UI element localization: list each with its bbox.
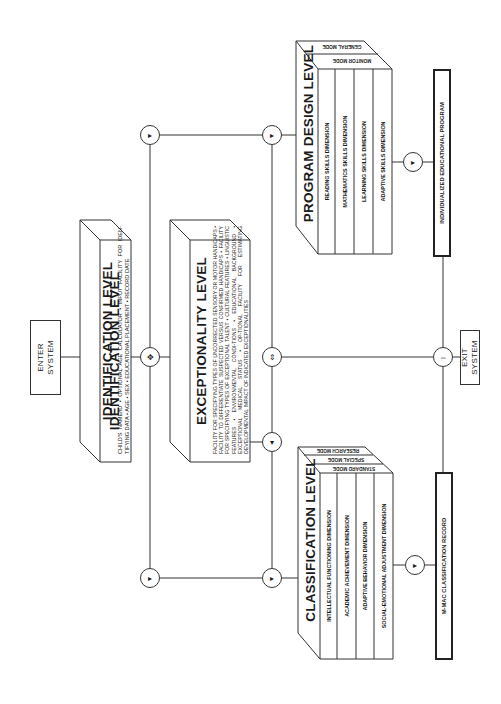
identification-level-panel: IDENTIFICATION LEVEL CHILD'S NAME/ID • O…: [80, 220, 131, 462]
junction-top-middle-arrow-right-icon[interactable]: ▸: [262, 125, 282, 145]
mode-standard[interactable]: STANDARD MODE: [324, 466, 384, 471]
junction-classification-output-arrow-right-icon[interactable]: ▸: [405, 555, 425, 575]
enter-system-label-1: ENTER: [36, 343, 46, 372]
mode-monitor[interactable]: MONITOR MODE: [322, 58, 382, 63]
mode-general[interactable]: GENERAL MODE: [312, 44, 372, 49]
connector-lines: [0, 0, 501, 704]
identification-description: CHILD'S NAME/ID • OPTIONAL AGE CALCULATO…: [115, 220, 131, 462]
junction-top-left-arrow-right-icon[interactable]: ▸: [140, 125, 160, 145]
junction-bottom-middle-arrow-right-icon[interactable]: ▸: [262, 568, 282, 588]
junction-exceptionality-down-icon[interactable]: ▾: [262, 432, 282, 452]
junction-exit-left-right-icon[interactable]: ⇔: [433, 347, 453, 367]
enter-system-box[interactable]: ENTER SYSTEM: [30, 320, 61, 395]
exit-system-box[interactable]: EXIT SYSTEM: [460, 330, 480, 385]
exceptionality-level-panel: EXCEPTIONALITY LEVEL FACILITY FOR SPECIF…: [170, 220, 250, 462]
classification-title: CLASSIFICATION LEVEL: [303, 458, 318, 622]
exceptionality-description: FACILITY FOR SPECIFYING TYPES OF UNCORRE…: [209, 220, 249, 462]
junction-bottom-left-arrow-right-icon[interactable]: ▸: [140, 568, 160, 588]
enter-system-label-2: SYSTEM: [46, 340, 56, 375]
dimension-social-emotional-adjustment[interactable]: SOCIAL-EMOTIONAL ADJUSTMENT DIMENSION: [381, 504, 387, 629]
junction-program-output-arrow-right-icon[interactable]: ▸: [403, 152, 423, 172]
mmac-classification-record-box[interactable]: M-MAC CLASSIFICATION RECORD: [435, 472, 453, 660]
mode-special[interactable]: SPECIAL MODE: [316, 457, 376, 462]
program-design-title: PROGRAM DESIGN LEVEL: [301, 45, 316, 222]
iep-label: INDIVIDUALIZED EDUCATIONAL PROGRAM: [439, 102, 445, 224]
individualized-educational-program-box[interactable]: INDIVIDUALIZED EDUCATIONAL PROGRAM: [433, 69, 451, 257]
junction-identification-split-icon[interactable]: ✥: [140, 347, 160, 367]
identification-title: IDENTIFICATION LEVEL: [98, 220, 115, 462]
exceptionality-title: EXCEPTIONALITY LEVEL: [192, 220, 209, 462]
dimension-adaptive-behavior[interactable]: ADAPTIVE BEHAVIOR DIMENSION: [362, 522, 368, 611]
junction-middle-up-down-icon[interactable]: ⇕: [262, 347, 282, 367]
mmac-label: M-MAC CLASSIFICATION RECORD: [441, 518, 447, 615]
dimension-intellectual-functioning[interactable]: INTELLECTUAL FUNCTIONING DIMENSION: [326, 510, 332, 622]
exit-system-label-1: EXIT: [460, 348, 470, 367]
dimension-academic-achievement[interactable]: ACADEMIC ACHIEVEMENT DIMENSION: [344, 515, 350, 617]
dimension-learning-skills[interactable]: LEARNING SKILLS DIMENSION: [361, 121, 367, 202]
dimension-reading-skills[interactable]: READING SKILLS DIMENSION: [324, 123, 330, 201]
mode-research[interactable]: RESEARCH MODE: [308, 448, 368, 453]
dimension-adaptive-skills[interactable]: ADAPTIVE SKILLS DIMENSION: [380, 122, 386, 202]
dimension-mathematics-skills[interactable]: MATHEMATICS SKILLS DIMENSION: [342, 116, 348, 208]
exit-system-label-2: SYSTEM: [470, 340, 480, 375]
